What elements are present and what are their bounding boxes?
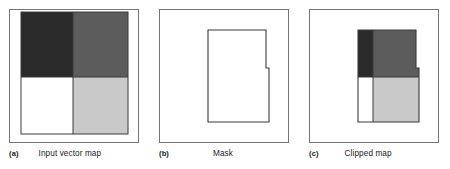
quadrant-bottom-left [21, 77, 73, 134]
caption-b-tag: (b) [159, 149, 169, 158]
figure-clipping-diagram: (a)Input vector map (b)Mask (c)Clipped m… [0, 0, 450, 169]
caption-a-label: Input vector map [39, 149, 102, 158]
caption-c-label: Clipped map [345, 149, 392, 158]
clipped-map-graphic [309, 9, 439, 143]
caption-a-tag: (a) [9, 149, 19, 158]
panel-clipped-map [309, 9, 439, 143]
caption-b-label: Mask [213, 149, 233, 158]
caption-c-tag: (c) [309, 149, 319, 158]
quadrant-top-left [21, 12, 73, 77]
mask-graphic [159, 9, 289, 143]
clipped-quadrant-bottom-right [373, 77, 428, 134]
mask-polygon [208, 30, 269, 122]
clipped-quadrant-top-right [373, 12, 428, 77]
caption-a: (a)Input vector map [9, 149, 101, 165]
clipped-quadrant-top-left [321, 12, 373, 77]
quadrant-bottom-right [73, 77, 128, 134]
panel-mask [159, 9, 289, 143]
clipped-quadrant-bottom-left [321, 77, 373, 134]
input-vector-map-graphic [9, 9, 139, 143]
caption-b: (b)Mask [159, 149, 233, 165]
caption-c: (c)Clipped map [309, 149, 392, 165]
quadrant-top-right [73, 12, 128, 77]
panel-input-vector-map [9, 9, 139, 143]
